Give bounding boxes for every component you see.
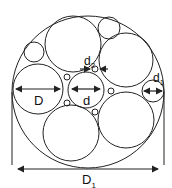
label-D: D (34, 94, 43, 107)
label-D1: D1 (82, 173, 96, 188)
bottom-right-large-circle (98, 92, 154, 148)
label-d1: d1 (153, 72, 164, 87)
right-upper-large-circle (99, 33, 153, 87)
tiny-circle-3 (108, 88, 114, 94)
top-left-small-circle (24, 42, 44, 62)
tiny-circle-2 (64, 74, 70, 80)
label-d: d (83, 94, 90, 107)
outer-circle (12, 16, 164, 168)
top-small-circle (98, 17, 120, 39)
label-d2: d2 (84, 55, 95, 70)
bottom-large-circle (43, 105, 99, 161)
tiny-circle-5 (92, 109, 98, 115)
